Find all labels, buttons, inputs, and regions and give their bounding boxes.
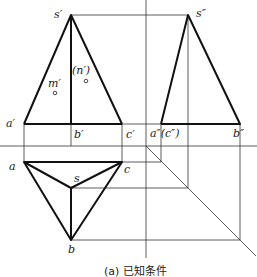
caption: (a) 已知条件 [104,264,167,277]
label-a-c-double-prime: a″(c″) [150,127,180,140]
label-b-prime: b′ [74,128,84,141]
point-m [53,91,57,95]
label-s-prime: s′ [54,8,63,21]
label-s-double-prime: s″ [196,7,207,20]
label-c-prime: c′ [126,128,135,141]
label-b-double-prime: b″ [233,127,245,140]
label-c: c [124,163,130,176]
label-a-prime: a′ [6,117,16,130]
side-view-outline [161,15,240,124]
label-a: a [9,160,16,173]
label-b: b [68,243,75,256]
label-s: s [74,172,80,185]
miter-line [146,146,256,256]
top-view-outline [24,162,122,240]
label-n-prime: (n′) [72,64,90,77]
projection-diagram: s′ a′ b′ c′ m′ (n′) s″ a″(c″) b″ a c s b… [0,0,257,277]
point-n [84,79,88,83]
label-m-prime: m′ [48,77,61,90]
